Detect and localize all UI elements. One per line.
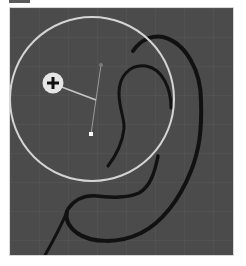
plus-icon: [43, 73, 64, 94]
brush-center-dot: [89, 132, 93, 136]
toolbar-tab[interactable]: [9, 0, 30, 3]
drawing-canvas[interactable]: [9, 7, 234, 256]
brush-origin-dot: [99, 63, 103, 67]
